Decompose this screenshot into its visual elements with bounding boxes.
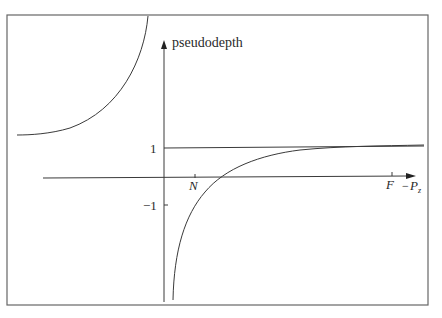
svg-text:−: − [402,179,409,193]
x-axis-label: − P z [402,178,422,195]
diagram-frame [7,15,428,305]
asymptote-line [164,146,424,148]
y-tick-label-one: 1 [150,141,157,156]
y-tick-label-minus-one: −1 [143,198,157,213]
x-tick-label-n: N [188,178,199,193]
right-branch-curve [173,145,424,300]
y-axis-arrow-icon [161,40,167,49]
left-branch-curve [17,16,148,135]
svg-text:P: P [409,178,418,193]
x-axis [43,176,408,178]
x-tick-label-f: F [385,177,395,192]
y-axis-label: pseudodepth [172,35,243,50]
pseudodepth-diagram: pseudodepth 1 −1 N F − P z [0,0,442,318]
svg-text:z: z [417,186,422,195]
